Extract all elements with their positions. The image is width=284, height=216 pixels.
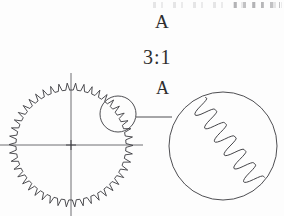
magnified-tooth-profile [195,97,265,182]
detail-callout-letter-bottom: A [156,79,170,97]
drawing-sheet: A 3:1 A [0,0,284,216]
detail-callout-circle [100,96,136,132]
detail-view-boundary-circle [169,92,277,200]
enlarged-detail-view [169,92,277,200]
drawing-canvas [0,0,284,216]
detail-callout-letter-top: A [155,12,169,31]
detail-scale-ratio: 3:1 [143,47,172,67]
gear-assembly [0,73,143,216]
